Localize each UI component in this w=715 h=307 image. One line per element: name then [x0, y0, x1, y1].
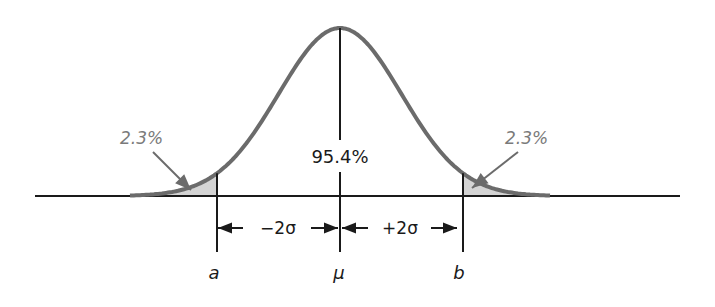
center-percent-label: 95.4% [311, 146, 368, 167]
right-tail-pointer-arrow [472, 152, 518, 188]
minus-2sigma-label: −2σ [260, 218, 296, 238]
normal-distribution-diagram: 95.4% 2.3% 2.3% −2σ +2σ a μ b [0, 0, 715, 307]
left-tail-percent-label: 2.3% [120, 128, 163, 148]
right-tail-percent-label: 2.3% [505, 128, 548, 148]
label-b: b [453, 262, 464, 283]
left-tail-pointer-arrow [153, 152, 191, 190]
label-a: a [208, 262, 219, 283]
plus-2sigma-label: +2σ [382, 218, 418, 238]
label-mu: μ [332, 262, 344, 283]
